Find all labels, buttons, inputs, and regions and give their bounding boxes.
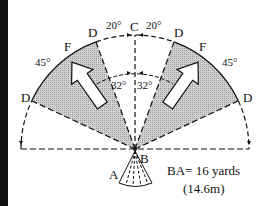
- label-angle-inner-left: 32°: [111, 80, 126, 91]
- label-angle-top-left: 20°: [106, 20, 121, 31]
- label-d-side-right: D: [243, 91, 252, 104]
- label-angle-side-left: 45°: [35, 57, 50, 68]
- caption-distance: BA= 16 yards: [167, 164, 240, 177]
- label-d-top-left: D: [88, 26, 97, 39]
- label-b: B: [140, 152, 149, 165]
- label-angle-top-right: 20°: [146, 20, 161, 31]
- label-angle-inner-right: 32°: [137, 80, 152, 91]
- label-f-left: F: [64, 40, 71, 53]
- label-a: A: [109, 168, 118, 181]
- point-b-marker: [133, 147, 137, 151]
- caption-metric: (14.6m): [183, 182, 225, 195]
- label-c: C: [130, 20, 139, 33]
- label-angle-side-right: 45°: [222, 57, 237, 68]
- label-d-side-left: D: [21, 91, 30, 104]
- label-f-right: F: [199, 40, 206, 53]
- label-d-top-right: D: [174, 26, 183, 39]
